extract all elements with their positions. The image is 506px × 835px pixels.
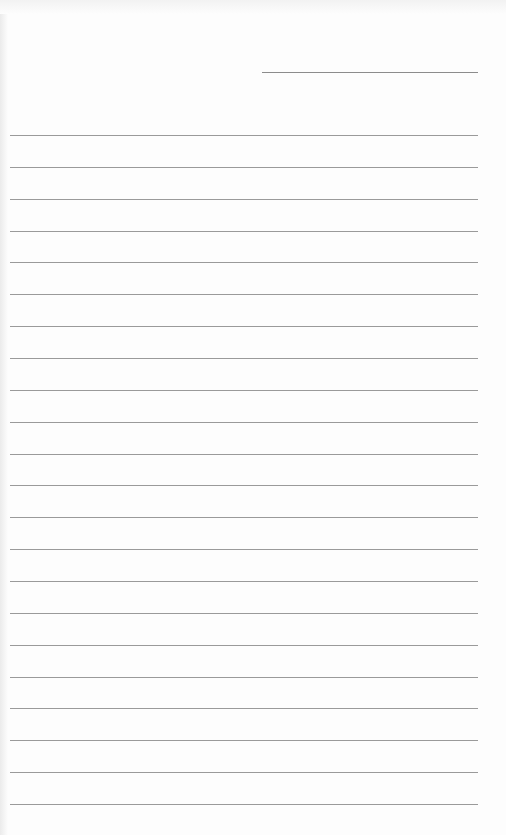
ruled-line — [10, 231, 478, 232]
ruled-line — [10, 581, 478, 582]
page-top-shade — [0, 0, 506, 14]
page-edge-shadow — [0, 0, 8, 835]
ruled-line — [10, 708, 478, 709]
lined-paper-page — [0, 0, 506, 835]
ruled-line — [10, 772, 478, 773]
ruled-line — [10, 740, 478, 741]
ruled-line — [10, 645, 478, 646]
ruled-line — [10, 454, 478, 455]
ruled-line — [10, 294, 478, 295]
ruled-line — [10, 390, 478, 391]
ruled-line — [10, 358, 478, 359]
ruled-line — [10, 167, 478, 168]
ruled-line — [10, 677, 478, 678]
ruled-line — [10, 804, 478, 805]
ruled-line — [10, 613, 478, 614]
ruled-line — [10, 326, 478, 327]
ruled-line — [10, 485, 478, 486]
header-line — [262, 72, 478, 73]
ruled-line — [10, 135, 478, 136]
ruled-line — [10, 199, 478, 200]
ruled-line — [10, 262, 478, 263]
ruled-line — [10, 422, 478, 423]
ruled-line — [10, 517, 478, 518]
ruled-line — [10, 549, 478, 550]
